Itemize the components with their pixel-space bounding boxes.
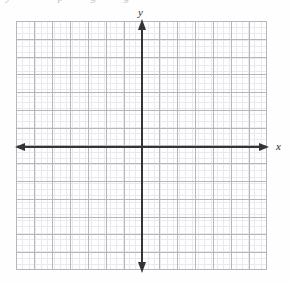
coordinate-plane-figure: y p g g y x <box>0 0 291 283</box>
x-axis-arrow-left <box>15 143 25 151</box>
y-axis-arrow-up <box>138 19 146 30</box>
x-axis-label: x <box>276 141 281 152</box>
axes-group <box>0 0 291 283</box>
y-axis-label: y <box>138 7 143 18</box>
y-axis-arrow-down <box>138 262 146 273</box>
x-axis-arrow-right <box>259 143 269 151</box>
